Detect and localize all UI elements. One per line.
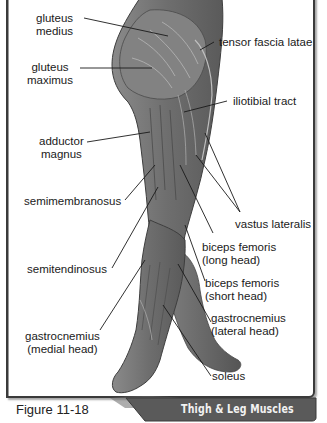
label-line: (medial head): [25, 343, 100, 356]
label-semitendinosus: semitendinosus: [27, 263, 107, 276]
label-gluteus-medius: gluteus medius: [36, 12, 73, 38]
label-gastrocnemius-lateral: gastrocnemius (lateral head): [211, 312, 286, 338]
label-line: maximus: [27, 74, 73, 87]
label-line: gluteus: [27, 61, 73, 74]
label-line: gluteus: [36, 12, 73, 25]
label-line: (long head): [202, 254, 276, 267]
label-line: (short head): [205, 290, 279, 303]
label-line: gastrocnemius: [25, 330, 100, 343]
label-iliotibial-tract: iliotibial tract: [233, 95, 296, 108]
label-line: adductor: [39, 135, 84, 148]
label-line: biceps femoris: [202, 241, 276, 254]
label-vastus-lateralis: vastus lateralis: [235, 218, 311, 231]
figure-caption: Figure 11-18: [16, 402, 89, 417]
label-semimembranosus: semimembranosus: [24, 195, 121, 208]
label-biceps-femoris-short: biceps femoris (short head): [205, 277, 279, 303]
label-line: biceps femoris: [205, 277, 279, 290]
label-line: gastrocnemius: [211, 312, 286, 325]
label-biceps-femoris-long: biceps femoris (long head): [202, 241, 276, 267]
label-tensor-fascia-latae: tensor fascia latae: [219, 36, 312, 49]
label-line: magnus: [39, 148, 84, 161]
label-gastrocnemius-medial: gastrocnemius (medial head): [25, 330, 100, 356]
label-adductor-magnus: adductor magnus: [39, 135, 84, 161]
left-leg: [112, 220, 185, 393]
label-gluteus-maximus: gluteus maximus: [27, 61, 73, 87]
label-soleus: soleus: [212, 370, 245, 383]
label-line: medius: [36, 25, 73, 38]
label-line: (lateral head): [211, 325, 286, 338]
figure-title: Thigh & Leg Muscles: [174, 399, 301, 419]
